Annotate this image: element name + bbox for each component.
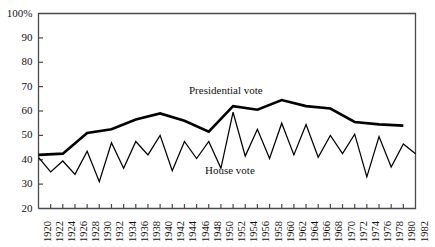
series-label-presidential-vote: Presidential vote bbox=[189, 84, 263, 96]
x-axis-tick-label: 1934 bbox=[128, 221, 139, 242]
x-axis-tick-label: 1946 bbox=[201, 221, 212, 242]
x-axis-tick-label: 1948 bbox=[213, 221, 224, 242]
chart-figure: 2030405060708090100% 1920192219241926192… bbox=[0, 0, 435, 247]
x-axis-tick-label: 1924 bbox=[67, 221, 78, 242]
x-axis-tick-label: 1922 bbox=[55, 221, 66, 242]
x-axis-tick-label: 1936 bbox=[140, 221, 151, 242]
x-axis-tick-label: 1962 bbox=[298, 221, 309, 242]
x-axis-tick-label: 1938 bbox=[152, 221, 163, 242]
x-axis-tick-label: 1956 bbox=[261, 221, 272, 242]
x-axis-tick-label: 1940 bbox=[164, 221, 175, 242]
series-label-house-vote: House vote bbox=[205, 164, 255, 176]
x-axis-tick-label: 1960 bbox=[286, 221, 297, 242]
chart-plot-area bbox=[0, 0, 435, 247]
y-axis-tick-label: 40 bbox=[22, 154, 33, 165]
y-axis-tick-label: 50 bbox=[22, 129, 33, 140]
x-axis-tick-label: 1932 bbox=[115, 221, 126, 242]
x-axis-tick-label: 1974 bbox=[371, 221, 382, 242]
x-axis-tick-label: 1952 bbox=[237, 221, 248, 242]
x-axis-tick-label: 1968 bbox=[334, 221, 345, 242]
y-axis-tick-label: 80 bbox=[22, 56, 33, 67]
x-axis-tick-label: 1942 bbox=[176, 221, 187, 242]
x-axis-tick-label: 1954 bbox=[249, 221, 260, 242]
y-axis-tick-label: 70 bbox=[22, 81, 33, 92]
x-axis-tick-label: 1980 bbox=[407, 221, 418, 242]
x-axis-tick-label: 1964 bbox=[310, 221, 321, 242]
x-axis-tick-label: 1944 bbox=[188, 221, 199, 242]
x-axis-tick-label: 1978 bbox=[395, 221, 406, 242]
x-axis-tick-label: 1976 bbox=[383, 221, 394, 242]
x-axis-tick-label: 1930 bbox=[103, 221, 114, 242]
x-axis-tick-label: 1958 bbox=[274, 221, 285, 242]
y-axis-tick-label: 60 bbox=[22, 105, 33, 116]
x-axis-tick-label: 1966 bbox=[322, 221, 333, 242]
x-axis-tick-label: 1928 bbox=[91, 221, 102, 242]
x-axis-tick-label: 1926 bbox=[79, 221, 90, 242]
chart-tick-marks bbox=[39, 38, 404, 209]
x-axis-tick-label: 1920 bbox=[43, 221, 54, 242]
y-axis-tick-label: 90 bbox=[22, 32, 33, 43]
x-axis-tick-label: 1970 bbox=[347, 221, 358, 242]
y-axis-tick-label: 100% bbox=[7, 8, 33, 19]
x-axis-tick-label: 1950 bbox=[225, 221, 236, 242]
x-axis-tick-label: 1982 bbox=[420, 221, 431, 242]
y-axis-tick-label: 30 bbox=[22, 178, 33, 189]
y-axis-tick-label: 20 bbox=[22, 203, 33, 214]
x-axis-tick-label: 1972 bbox=[359, 221, 370, 242]
